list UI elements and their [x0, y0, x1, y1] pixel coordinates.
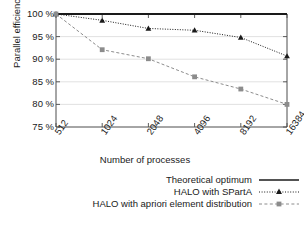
x-tick-label: 4096: [192, 114, 212, 137]
legend-label: Theoretical optimum: [166, 174, 252, 186]
y-axis-title: Parallel efficiency: [12, 0, 22, 86]
legend-label: HALO with SPartA: [174, 186, 252, 198]
legend-item-halo-sparta: HALO with SPartA: [8, 186, 300, 198]
x-tick-label: 8192: [238, 114, 258, 137]
caption-sliver: [0, 217, 304, 225]
legend-key-dotted-triangle-icon: [258, 186, 300, 198]
legend-item-theoretical-optimum: Theoretical optimum: [8, 174, 300, 186]
legend-item-halo-apriori: HALO with apriori element distribution: [8, 198, 300, 210]
figure: 75 %80 %85 %90 %95 %100 % 51210242048409…: [0, 0, 304, 225]
x-tick-label: 512: [53, 118, 70, 136]
legend-label: HALO with apriori element distribution: [93, 198, 252, 210]
x-tick-label: 2048: [145, 114, 165, 137]
legend-key-dashed-square-icon: [258, 198, 300, 210]
x-axis-title: Number of processes: [45, 155, 245, 165]
chart-legend: Theoretical optimum HALO with SPartA HAL…: [8, 174, 300, 210]
x-tick-label: 1024: [99, 114, 119, 137]
legend-key-solid-line-icon: [258, 174, 300, 186]
x-tick-label: 16384: [284, 109, 304, 136]
